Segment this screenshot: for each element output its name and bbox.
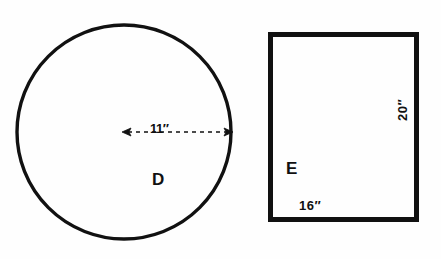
circle-d-label: D bbox=[152, 171, 165, 188]
circle-d-radius-dimension-label: 11″ bbox=[150, 122, 168, 135]
rectangle-e-height-dimension-label: 20″ bbox=[396, 99, 409, 121]
geometry-figure-canvas: D 11″ E 16″ 20″ bbox=[0, 0, 441, 259]
rectangle-e-width-dimension-label: 16″ bbox=[299, 199, 321, 212]
figure-vector-layer bbox=[0, 0, 441, 259]
rectangle-e-outline bbox=[271, 35, 417, 220]
rectangle-e-label: E bbox=[286, 160, 298, 177]
